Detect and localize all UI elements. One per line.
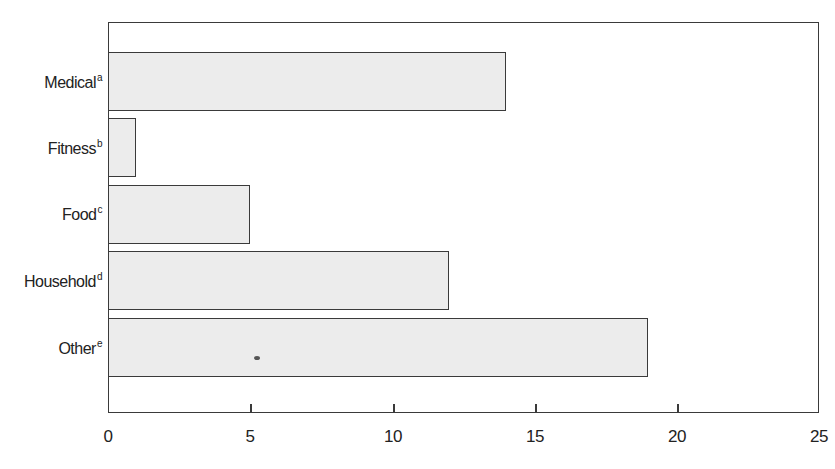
x-tick-label-20: 20 [668, 427, 686, 447]
x-tick-5 [250, 404, 252, 413]
x-tick-label-0: 0 [104, 427, 113, 447]
category-label-other: Othere [58, 338, 102, 358]
bar-other [108, 318, 648, 377]
x-tick-20 [677, 404, 679, 413]
bar-household [108, 251, 449, 310]
bar-medical [108, 52, 506, 111]
horizontal-bar-chart: Medicala Fitnessb Foodc Householdd Other… [0, 0, 835, 469]
category-label-medical: Medicala [44, 72, 102, 92]
category-label-food: Foodc [62, 204, 102, 224]
x-tick-15 [535, 404, 537, 413]
category-label-household: Householdd [24, 271, 102, 291]
x-tick-label-10: 10 [384, 427, 402, 447]
x-tick-label-15: 15 [526, 427, 544, 447]
x-tick-label-5: 5 [246, 427, 255, 447]
bar-food [108, 185, 250, 244]
x-tick-10 [393, 404, 395, 413]
bar-fitness [108, 118, 136, 177]
category-label-fitness: Fitnessb [48, 138, 102, 158]
scan-artifact-dot [254, 356, 260, 360]
x-tick-label-25: 25 [810, 427, 828, 447]
